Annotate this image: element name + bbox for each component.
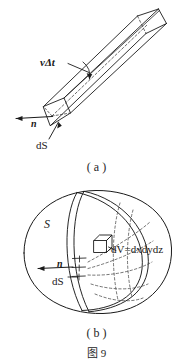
volume-element-cube-b: [94, 235, 112, 253]
label-normal-vector-a: n: [31, 119, 37, 129]
label-volume-element-b: dV=dxdydz: [111, 244, 163, 255]
caption-figure-number: 图 9: [0, 344, 193, 360]
normal-vector-b: [38, 266, 73, 271]
label-normal-vector-b: n: [57, 259, 63, 269]
label-area-element-b: dS: [52, 276, 64, 287]
vdt-leader-a: [68, 62, 92, 79]
caption-panel-a: ( a ): [0, 160, 193, 175]
label-area-element-a: dS: [36, 140, 48, 151]
caption-panel-b: ( b ): [0, 326, 193, 341]
panel-a-prism: [44, 9, 167, 126]
ds-patch-b: [72, 256, 86, 280]
label-v-delta-t: vΔt: [40, 57, 55, 68]
label-surface-s: S: [44, 218, 50, 230]
